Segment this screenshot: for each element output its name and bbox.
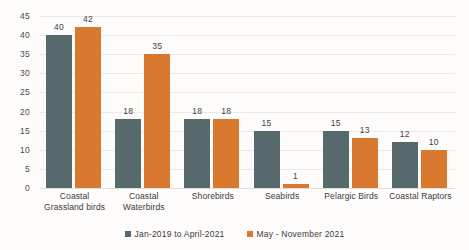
bar [115,119,141,188]
bar-value-label: 13 [345,125,385,135]
bar [323,131,349,188]
category-label-line: Coastal [109,191,178,202]
y-axis: 454035302520151050 [0,16,36,188]
y-axis-tick-label: 35 [20,49,30,59]
bar [144,54,170,188]
category-label-line: Coastal [40,191,109,202]
bar-group: 1513 [317,16,386,188]
bar [283,184,309,188]
y-axis-tick-label: 30 [20,68,30,78]
chart-legend: Jan-2019 to April-2021May - November 202… [0,229,469,239]
category-label-line: Coastal Raptors [386,191,455,202]
legend-label: Jan-2019 to April-2021 [135,229,225,239]
category-label-line: Seabirds [248,191,317,202]
category-label-line: Pelargic Birds [317,191,386,202]
y-axis-tick-label: 20 [20,107,30,117]
x-axis-category-label: CoastalGrassland birds [40,191,109,213]
bar-group: 1210 [386,16,455,188]
bar-group: 4042 [40,16,109,188]
bar-group: 151 [248,16,317,188]
bar-value-label: 18 [206,106,246,116]
bar-value-label: 15 [247,118,287,128]
category-label-line: Waterbirds [109,202,178,213]
category-label-line: Grassland birds [40,202,109,213]
y-axis-tick-label: 10 [20,145,30,155]
x-axis-category-label: Seabirds [248,191,317,202]
y-axis-tick-label: 25 [20,87,30,97]
legend-item[interactable]: Jan-2019 to April-2021 [125,229,225,239]
bar-value-label: 10 [414,137,454,147]
x-axis-category-label: Coastal Raptors [386,191,455,202]
y-axis-tick-label: 5 [25,164,30,174]
x-axis-category-labels: CoastalGrassland birdsCoastalWaterbirdsS… [40,191,455,225]
bar-series-container: 40421835181815115131210 [40,16,455,188]
legend-swatch-icon [125,231,131,237]
bar [421,150,447,188]
chart-screenshot: 454035302520151050 404218351818151151312… [0,0,469,250]
bar [392,142,418,188]
bar-value-label: 35 [137,41,177,51]
legend-item[interactable]: May - November 2021 [247,229,345,239]
bar [75,27,101,188]
bar [184,119,210,188]
axis-baseline [40,188,455,189]
bar-value-label: 18 [108,106,148,116]
bar-value-label: 1 [276,171,316,181]
category-label-line: Shorebirds [178,191,247,202]
bar [352,138,378,188]
y-axis-tick-label: 45 [20,11,30,21]
y-axis-tick-label: 15 [20,126,30,136]
bar-group: 1835 [109,16,178,188]
x-axis-category-label: CoastalWaterbirds [109,191,178,213]
y-axis-tick-label: 0 [25,183,30,193]
bar-value-label: 42 [68,14,108,24]
y-axis-tick-label: 40 [20,30,30,40]
bar [46,35,72,188]
legend-label: May - November 2021 [257,229,345,239]
x-axis-category-label: Shorebirds [178,191,247,202]
bar-group: 1818 [178,16,247,188]
x-axis-category-label: Pelargic Birds [317,191,386,202]
bar [213,119,239,188]
legend-swatch-icon [247,231,253,237]
